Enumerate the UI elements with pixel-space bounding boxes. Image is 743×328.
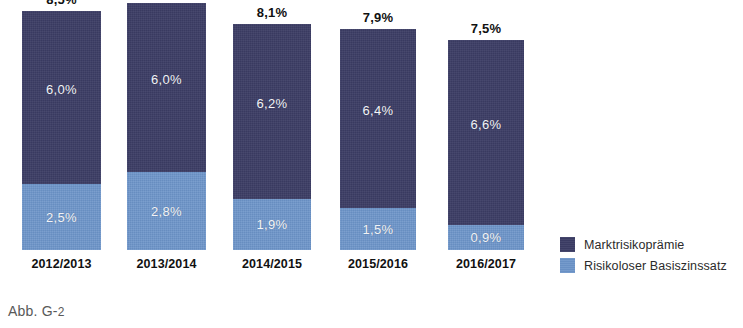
bar-total-label: 7,9% bbox=[340, 11, 416, 29]
bar-group[interactable]: 7,5% 6,6% 0,9% 2016/2017 bbox=[448, 40, 524, 250]
legend-swatch-icon bbox=[560, 237, 575, 252]
bar-total-label: 7,5% bbox=[448, 22, 524, 40]
bar-segment-basiszinssatz[interactable]: 0,9% bbox=[448, 225, 524, 250]
bar-segment-label: 6,6% bbox=[471, 117, 502, 132]
bar-segment-basiszinssatz[interactable]: 2,8% bbox=[127, 172, 206, 250]
figure-caption-number: 2 bbox=[58, 305, 65, 319]
bar-segment-basiszinssatz[interactable]: 1,9% bbox=[233, 199, 311, 250]
x-axis-tick-label: 2013/2014 bbox=[113, 250, 220, 271]
x-axis-tick-label: 2012/2013 bbox=[8, 250, 115, 271]
bar-segment-marktrisikopraemie[interactable]: 6,0% bbox=[22, 11, 101, 184]
bar-segment-label: 6,0% bbox=[46, 82, 77, 97]
bar-segment-marktrisikopraemie[interactable]: 6,2% bbox=[233, 24, 311, 199]
bar-segment-label: 2,5% bbox=[46, 210, 77, 225]
legend-swatch-icon bbox=[560, 258, 575, 273]
bar-segment-label: 6,2% bbox=[257, 96, 288, 111]
figure-caption: Abb. G-2 bbox=[8, 303, 65, 319]
bar-segment-label: 6,0% bbox=[151, 72, 182, 87]
bar-group[interactable]: 8,8% 6,0% 2,8% 2013/2014 bbox=[127, 3, 206, 250]
bar-segment-label: 0,9% bbox=[471, 230, 502, 245]
bar-segment-marktrisikopraemie[interactable]: 6,6% bbox=[448, 40, 524, 225]
bar-group[interactable]: 7,9% 6,4% 1,5% 2015/2016 bbox=[340, 29, 416, 250]
bar-segment-label: 1,5% bbox=[363, 222, 394, 237]
x-axis-tick-label: 2016/2017 bbox=[434, 250, 538, 271]
x-axis-tick-label: 2015/2016 bbox=[326, 250, 430, 271]
legend-item-label: Risikoloser Basiszinssatz bbox=[584, 259, 727, 273]
bar-total-label: 8,1% bbox=[233, 6, 311, 24]
bar-segment-marktrisikopraemie[interactable]: 6,0% bbox=[127, 3, 206, 172]
bar-total-label: 8,5% bbox=[22, 0, 101, 11]
bar-segment-marktrisikopraemie[interactable]: 6,4% bbox=[340, 29, 416, 208]
chart-plot-area: 8,5% 6,0% 2,5% 2012/2013 8,8% 6,0% 2,8% … bbox=[0, 0, 545, 300]
bar-segment-label: 1,9% bbox=[257, 217, 288, 232]
bar-group[interactable]: 8,5% 6,0% 2,5% 2012/2013 bbox=[22, 11, 101, 250]
stacked-bar-chart-figure: 8,5% 6,0% 2,5% 2012/2013 8,8% 6,0% 2,8% … bbox=[0, 0, 743, 328]
bar-segment-basiszinssatz[interactable]: 2,5% bbox=[22, 184, 101, 250]
x-axis-tick-label: 2014/2015 bbox=[219, 250, 325, 271]
bar-segment-label: 6,4% bbox=[363, 103, 394, 118]
legend-item-basiszinssatz[interactable]: Risikoloser Basiszinssatz bbox=[560, 255, 727, 276]
bar-segment-basiszinssatz[interactable]: 1,5% bbox=[340, 208, 416, 250]
bar-group[interactable]: 8,1% 6,2% 1,9% 2014/2015 bbox=[233, 24, 311, 250]
figure-caption-prefix: Abb. G- bbox=[8, 303, 58, 319]
legend-item-marktrisikopraemie[interactable]: Marktrisikoprämie bbox=[560, 234, 727, 255]
chart-legend: Marktrisikoprämie Risikoloser Basiszinss… bbox=[560, 234, 727, 276]
legend-item-label: Marktrisikoprämie bbox=[584, 238, 684, 252]
bar-segment-label: 2,8% bbox=[151, 204, 182, 219]
